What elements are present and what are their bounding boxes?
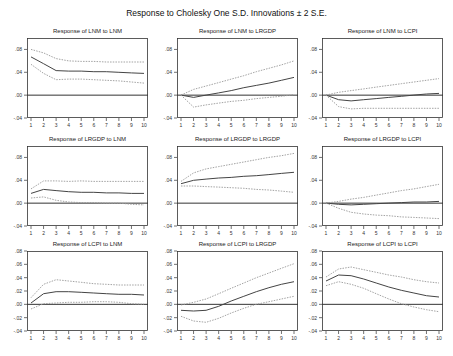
y-tick-label: .06 (15, 261, 22, 267)
x-tick-label: 9 (130, 230, 133, 236)
x-tick-label: 3 (55, 335, 58, 341)
y-tick-label: -.04 (13, 223, 22, 229)
y-tick-label: .08 (15, 46, 22, 52)
y-tick-label: -.02 (308, 315, 317, 321)
x-tick-label: 7 (400, 230, 403, 236)
x-tick-label: 10 (291, 230, 297, 236)
x-tick-label: 10 (436, 335, 442, 341)
y-tick-label: .06 (310, 261, 317, 267)
irf-panel: Response of LCPI to LCPI.08.06.04.02.00-… (322, 251, 443, 331)
x-tick-label: 9 (280, 122, 283, 128)
response-line (181, 172, 294, 183)
x-tick-label: 3 (350, 122, 353, 128)
irf-panel: Response of LCPI to LRGDP.08.06.04.02.00… (177, 251, 298, 331)
x-tick-label: 1 (180, 335, 183, 341)
x-tick-label: 7 (400, 335, 403, 341)
irf-plot: .08.04.00-.0412345678910 (27, 146, 148, 226)
lower-band-line (181, 186, 294, 192)
lower-band-line (326, 95, 439, 109)
y-tick-label: .04 (310, 69, 317, 75)
y-tick-label: .08 (310, 248, 317, 254)
y-tick-label: .08 (310, 46, 317, 52)
x-tick-label: 2 (337, 230, 340, 236)
x-tick-label: 2 (337, 335, 340, 341)
panel-title: Response of LRGDP to LRGDP (177, 136, 298, 142)
x-tick-label: 8 (412, 335, 415, 341)
y-tick-label: .00 (15, 92, 22, 98)
irf-plot: .08.06.04.02.00-.02-.0412345678910 (322, 251, 443, 331)
x-tick-label: 2 (42, 122, 45, 128)
upper-band-line (31, 49, 144, 62)
y-tick-label: -.04 (13, 328, 22, 334)
y-tick-label: -.04 (308, 223, 317, 229)
response-line (31, 189, 144, 193)
y-tick-label: .04 (15, 69, 22, 75)
x-tick-label: 3 (55, 230, 58, 236)
x-tick-label: 5 (230, 230, 233, 236)
x-tick-label: 7 (105, 335, 108, 341)
lower-band-line (326, 203, 439, 219)
x-tick-label: 6 (92, 230, 95, 236)
response-line (326, 93, 439, 101)
x-tick-label: 7 (255, 122, 258, 128)
irf-plot: .08.04.00-.0412345678910 (322, 146, 443, 226)
panel-title: Response of LCPI to LNM (27, 241, 148, 247)
x-tick-label: 8 (412, 230, 415, 236)
y-tick-label: .08 (165, 46, 172, 52)
x-tick-label: 3 (350, 230, 353, 236)
x-tick-label: 4 (67, 122, 70, 128)
y-tick-label: .04 (165, 275, 172, 281)
y-tick-label: .08 (15, 154, 22, 160)
panel-title: Response of LNM to LRGDP (177, 28, 298, 34)
y-tick-label: .04 (310, 177, 317, 183)
lower-band-line (31, 64, 144, 83)
irf-panel: Response of LNM to LCPI.08.04.00-.041234… (322, 38, 443, 118)
x-tick-label: 6 (92, 335, 95, 341)
x-tick-label: 6 (242, 230, 245, 236)
lower-band-line (326, 282, 439, 312)
x-tick-label: 5 (375, 230, 378, 236)
lower-band-line (181, 296, 294, 322)
y-tick-label: .00 (310, 92, 317, 98)
y-tick-label: -.04 (13, 115, 22, 121)
x-tick-label: 6 (387, 230, 390, 236)
irf-panel: Response of LNM to LNM.08.04.00-.0412345… (27, 38, 148, 118)
x-tick-label: 5 (375, 122, 378, 128)
response-line (181, 77, 294, 97)
x-tick-label: 7 (255, 230, 258, 236)
y-tick-label: .04 (15, 177, 22, 183)
figure-title: Response to Cholesky One S.D. Innovation… (0, 8, 453, 18)
x-tick-label: 9 (280, 335, 283, 341)
panel-title: Response of LNM to LNM (27, 28, 148, 34)
irf-plot: .08.06.04.02.00-.02-.0412345678910 (27, 251, 148, 331)
y-tick-label: .08 (15, 248, 22, 254)
lower-band-line (31, 197, 144, 205)
lower-band-line (31, 302, 144, 309)
x-tick-label: 2 (337, 122, 340, 128)
y-tick-label: .04 (15, 275, 22, 281)
x-tick-label: 4 (67, 230, 70, 236)
x-tick-label: 4 (67, 335, 70, 341)
y-tick-label: .00 (310, 301, 317, 307)
x-tick-label: 1 (325, 230, 328, 236)
x-tick-label: 5 (80, 122, 83, 128)
y-tick-label: .02 (165, 288, 172, 294)
response-line (31, 292, 144, 303)
x-tick-label: 10 (436, 122, 442, 128)
response-line (31, 57, 144, 74)
irf-panel: Response of LCPI to LNM.08.06.04.02.00-.… (27, 251, 148, 331)
irf-plot: .08.04.00-.0412345678910 (27, 38, 148, 118)
x-tick-label: 9 (425, 122, 428, 128)
x-tick-label: 1 (180, 230, 183, 236)
upper-band-line (326, 79, 439, 96)
y-tick-label: .00 (15, 200, 22, 206)
irf-panel: Response of LRGDP to LCPI.08.04.00-.0412… (322, 146, 443, 226)
x-tick-label: 9 (130, 122, 133, 128)
y-tick-label: .00 (165, 92, 172, 98)
x-tick-label: 5 (80, 230, 83, 236)
y-tick-label: -.04 (163, 328, 172, 334)
irf-panel: Response of LRGDP to LRGDP.08.04.00-.041… (177, 146, 298, 226)
panel-title: Response of LNM to LCPI (322, 28, 443, 34)
x-tick-label: 4 (217, 230, 220, 236)
x-tick-label: 9 (130, 335, 133, 341)
